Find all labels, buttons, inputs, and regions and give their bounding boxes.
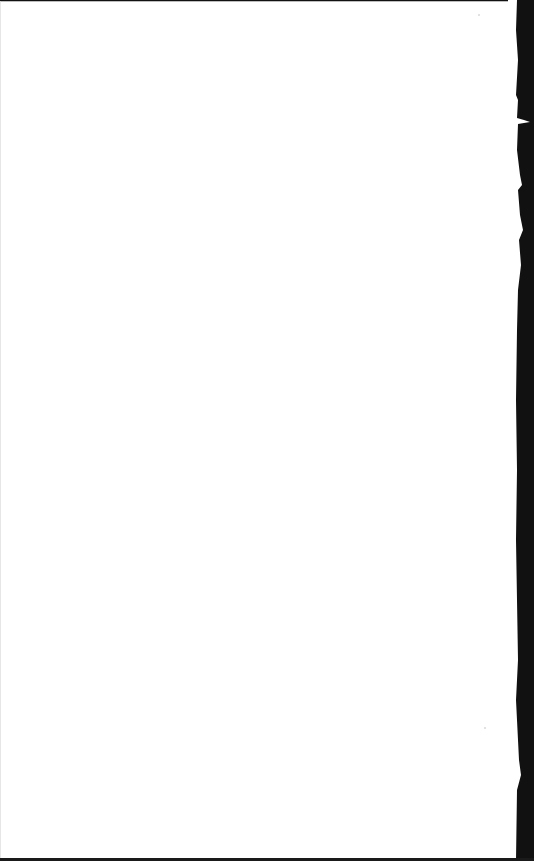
torn-page-edge — [508, 0, 534, 861]
scan-speck — [478, 14, 480, 16]
scan-speck — [484, 727, 486, 729]
blank-page — [0, 1, 509, 858]
